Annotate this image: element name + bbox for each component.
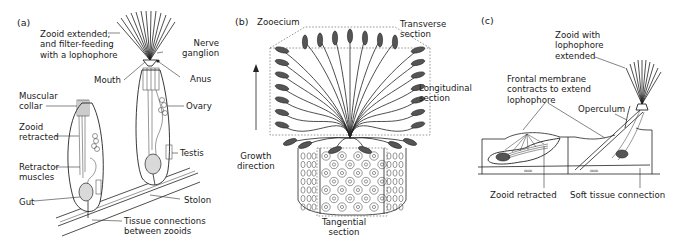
zooecium (275, 108, 290, 117)
zooecium (411, 121, 426, 130)
cell (387, 187, 391, 193)
zooecium (347, 29, 352, 43)
cell (393, 195, 397, 201)
cell (346, 194, 354, 202)
label-line: direction (237, 161, 275, 171)
cell-aperture (324, 154, 327, 157)
zooecium (403, 137, 418, 147)
zooecium (362, 31, 367, 45)
cell-aperture (356, 154, 359, 157)
cell (346, 177, 354, 185)
label-testis: Testis (180, 148, 204, 158)
label-line: contracts to extend (507, 84, 591, 94)
label-retractor-muscles: Retractor muscles (19, 162, 59, 183)
zooecium-branch (350, 63, 418, 139)
cell (354, 169, 362, 177)
cell (370, 203, 378, 211)
cell (393, 187, 397, 193)
zooecium (283, 137, 298, 147)
cell (399, 195, 403, 201)
zooecium (411, 46, 426, 55)
label-line: Retractor (19, 162, 59, 172)
zooecium (298, 140, 313, 150)
zooecium (302, 35, 307, 49)
label-longitudinal-section: Longitudinal section (419, 83, 472, 104)
cell (387, 204, 391, 210)
cell-aperture (324, 171, 327, 174)
label-transverse-section: Transverse section (400, 19, 446, 40)
cell (354, 186, 362, 194)
cell (330, 177, 338, 185)
cell (393, 161, 397, 167)
zooecium (275, 83, 290, 92)
cell (338, 186, 346, 194)
cell (346, 160, 354, 168)
cell (387, 195, 391, 201)
label-line: between zooids (124, 226, 206, 236)
zooecium (377, 33, 382, 47)
label-line: Zooid (19, 122, 59, 132)
cell (301, 187, 305, 193)
zooecium (275, 46, 290, 55)
cell-aperture (380, 163, 383, 166)
cell (399, 161, 403, 167)
zooecium (317, 33, 322, 47)
cell (354, 152, 362, 160)
label-soft-tissue-connection: Soft tissue connection (570, 190, 665, 200)
label-muscular-collar: Muscular collar (19, 91, 58, 112)
cell (307, 178, 311, 184)
label-line: retracted (19, 132, 59, 142)
label-frontal-membrane: Frontal membrane contracts to extend lop… (507, 74, 591, 105)
cell (330, 194, 338, 202)
panel-b-drawing (253, 27, 430, 216)
label-gut: Gut (19, 197, 34, 207)
cell (307, 204, 311, 210)
cell (393, 178, 397, 184)
cell (312, 178, 316, 184)
label-zooid-retracted-c: Zooid retracted (490, 190, 557, 200)
label-line: and filter-feeding (40, 39, 118, 49)
cell (387, 170, 391, 176)
label-tissue-connections: Tissue connections between zooids (124, 216, 206, 237)
cell (301, 161, 305, 167)
cell-aperture (356, 205, 359, 208)
label-tangential-section: Tangential section (322, 217, 366, 238)
label-zooecium: Zooecium (257, 17, 300, 27)
extended-zooid (117, 11, 175, 185)
cell-aperture (364, 163, 367, 166)
cell (387, 178, 391, 184)
cell (378, 177, 386, 185)
panel-a-letter: (a) (17, 17, 30, 28)
cell (338, 203, 346, 211)
zooecium (388, 140, 403, 150)
cell (393, 204, 397, 210)
zooecium (411, 58, 426, 67)
panel-b-letter: (b) (235, 16, 248, 27)
cell (307, 161, 311, 167)
cell (399, 170, 403, 176)
cell (370, 186, 378, 194)
cell-aperture (348, 163, 351, 166)
label-line: Longitudinal (419, 83, 472, 93)
lophophore-tentacles (117, 11, 175, 60)
cell (307, 170, 311, 176)
label-line: Zooid with (555, 30, 604, 40)
label-line: Muscular (19, 91, 58, 101)
cell (322, 203, 330, 211)
cell (387, 153, 391, 159)
cell (362, 160, 370, 168)
cell-aperture (340, 154, 343, 157)
cell-aperture (332, 163, 335, 166)
cell (354, 203, 362, 211)
cell-aperture (364, 180, 367, 183)
cell-aperture (372, 205, 375, 208)
zooecium (358, 145, 373, 155)
cell (301, 153, 305, 159)
label-zooid-retracted: Zooid retracted (19, 122, 59, 143)
label-line: Frontal membrane (507, 74, 591, 84)
label-line: Transverse (400, 19, 446, 29)
tangential-base (298, 148, 406, 216)
zooecium (411, 71, 426, 80)
cell-aperture (324, 205, 327, 208)
cell-aperture (332, 180, 335, 183)
